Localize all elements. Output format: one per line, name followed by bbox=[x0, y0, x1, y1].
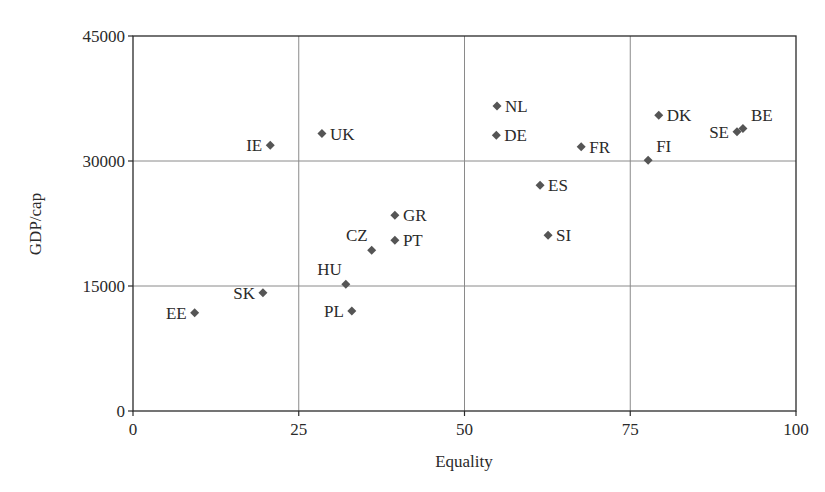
data-point-hu: HU bbox=[317, 260, 350, 289]
point-label: SK bbox=[233, 284, 255, 303]
diamond-marker-icon bbox=[266, 141, 275, 150]
data-point-dk: DK bbox=[654, 106, 692, 125]
data-point-se: SE bbox=[709, 123, 741, 142]
point-label: IE bbox=[246, 136, 262, 155]
x-axis-title: Equality bbox=[435, 452, 493, 471]
diamond-marker-icon bbox=[367, 246, 376, 255]
diamond-marker-icon bbox=[654, 111, 663, 120]
y-tick-label: 15000 bbox=[83, 277, 126, 296]
data-point-ee: EE bbox=[166, 304, 199, 323]
diamond-marker-icon bbox=[190, 308, 199, 317]
point-label: PL bbox=[324, 302, 344, 321]
diamond-marker-icon bbox=[390, 211, 399, 220]
point-label: DK bbox=[667, 106, 692, 125]
data-point-nl: NL bbox=[492, 97, 527, 116]
point-label: DE bbox=[504, 126, 527, 145]
x-tick-label: 0 bbox=[129, 420, 138, 439]
data-point-de: DE bbox=[492, 126, 527, 145]
data-point-be: BE bbox=[738, 106, 772, 134]
scatter-chart: 0255075100 0150003000045000 EESKIEUKHUPL… bbox=[0, 0, 825, 492]
data-point-ie: IE bbox=[246, 136, 275, 155]
x-tick-label: 25 bbox=[290, 420, 307, 439]
diamond-marker-icon bbox=[390, 236, 399, 245]
point-label: NL bbox=[505, 97, 528, 116]
diamond-marker-icon bbox=[258, 288, 267, 297]
gridlines bbox=[133, 36, 796, 411]
point-label: ES bbox=[548, 176, 568, 195]
point-label: BE bbox=[751, 106, 773, 125]
data-point-gr: GR bbox=[390, 206, 427, 225]
data-point-fr: FR bbox=[577, 138, 611, 157]
point-label: FI bbox=[656, 137, 671, 156]
diamond-marker-icon bbox=[492, 102, 501, 111]
y-tick-label: 45000 bbox=[83, 27, 126, 46]
point-label: UK bbox=[330, 125, 355, 144]
data-point-sk: SK bbox=[233, 284, 267, 303]
data-point-pl: PL bbox=[324, 302, 356, 321]
point-label: CZ bbox=[346, 226, 368, 245]
data-points: EESKIEUKHUPLCZGRPTNLDEESSIFRFIDKSEBE bbox=[166, 97, 773, 323]
x-tick-label: 75 bbox=[622, 420, 639, 439]
point-label: SE bbox=[709, 123, 729, 142]
point-label: HU bbox=[317, 260, 342, 279]
y-axis-ticks: 0150003000045000 bbox=[83, 27, 134, 421]
x-tick-label: 100 bbox=[783, 420, 809, 439]
data-point-uk: UK bbox=[317, 125, 355, 144]
data-point-cz: CZ bbox=[346, 226, 376, 255]
data-point-pt: PT bbox=[390, 231, 423, 250]
y-axis-title: GDP/cap bbox=[26, 193, 45, 255]
x-axis-ticks: 0255075100 bbox=[129, 411, 809, 439]
diamond-marker-icon bbox=[544, 231, 553, 240]
point-label: PT bbox=[403, 231, 423, 250]
diamond-marker-icon bbox=[492, 131, 501, 140]
x-tick-label: 50 bbox=[456, 420, 473, 439]
data-point-es: ES bbox=[536, 176, 568, 195]
point-label: SI bbox=[556, 226, 571, 245]
point-label: GR bbox=[403, 206, 427, 225]
point-label: FR bbox=[589, 138, 610, 157]
point-label: EE bbox=[166, 304, 187, 323]
diamond-marker-icon bbox=[347, 307, 356, 316]
diamond-marker-icon bbox=[341, 280, 350, 289]
diamond-marker-icon bbox=[536, 181, 545, 190]
data-point-si: SI bbox=[544, 226, 572, 245]
diamond-marker-icon bbox=[317, 129, 326, 138]
y-tick-label: 30000 bbox=[83, 152, 126, 171]
diamond-marker-icon bbox=[577, 142, 586, 151]
diamond-marker-icon bbox=[644, 156, 653, 165]
y-tick-label: 0 bbox=[117, 402, 126, 421]
